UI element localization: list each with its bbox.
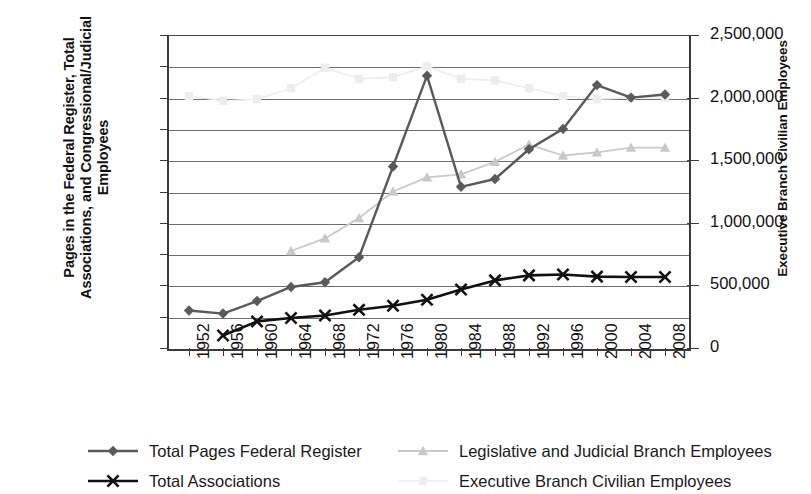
data-point-square — [419, 477, 427, 485]
legend-item-label: Legislative and Judicial Branch Employee… — [459, 442, 772, 461]
data-point-triangle — [388, 186, 398, 195]
data-point-square — [321, 64, 329, 72]
legend-item-label: Total Pages Federal Register — [149, 442, 362, 461]
y-axis-right-tick-label: 1,000,000 — [710, 212, 783, 231]
x-axis-tick-mark — [597, 348, 598, 356]
series-legislative-and-judicial-branch-employees — [286, 139, 670, 255]
legend-item-label: Total Associations — [149, 472, 280, 491]
data-point-square — [219, 97, 227, 105]
legend-marker-triangle-icon — [396, 440, 450, 462]
data-point-square — [423, 62, 431, 70]
legend-item[interactable]: Legislative and Judicial Branch Employee… — [396, 438, 772, 464]
y-axis-right-tick-mark — [687, 98, 699, 99]
legend-marker-square-icon — [396, 470, 450, 492]
data-point-diamond — [422, 70, 432, 80]
y-axis-right-tick-label: 2,500,000 — [710, 24, 783, 43]
x-axis-tick-mark — [427, 348, 428, 356]
y-axis-right-tick-mark — [687, 160, 699, 161]
series-total-pages-federal-register — [184, 70, 670, 318]
chart-figure: Pages in the Federal Register, Total Ass… — [0, 0, 811, 494]
legend-item-label: Executive Branch Civilian Employees — [459, 472, 731, 491]
data-point-diamond — [218, 308, 228, 318]
data-point-square — [355, 75, 363, 83]
x-axis-tick-mark — [257, 348, 258, 356]
x-axis-tick-mark — [189, 348, 190, 356]
data-point-square — [457, 75, 465, 83]
data-point-triangle — [490, 157, 500, 166]
data-point-diamond — [456, 182, 466, 192]
x-axis-tick-mark — [665, 348, 666, 356]
legend-item[interactable]: Total Pages Federal Register — [86, 438, 362, 464]
data-point-diamond — [108, 446, 118, 456]
data-point-diamond — [252, 296, 262, 306]
legend-marker-diamond-icon — [86, 440, 140, 462]
y-axis-title-left: Pages in the Federal Register, Total Ass… — [61, 8, 112, 308]
x-axis-tick-mark — [495, 348, 496, 356]
data-point-square — [185, 92, 193, 100]
data-point-square — [491, 76, 499, 84]
legend-marker-x-icon — [86, 470, 140, 492]
y-axis-right-tick-mark — [687, 223, 699, 224]
y-axis-right-tick-label: 500,000 — [710, 274, 770, 293]
data-point-square — [525, 84, 533, 92]
x-axis-tick-mark — [325, 348, 326, 356]
x-axis-tick-mark — [393, 348, 394, 356]
legend-item[interactable]: Total Associations — [86, 468, 280, 494]
legend-item[interactable]: Executive Branch Civilian Employees — [396, 468, 731, 494]
data-point-x — [217, 330, 228, 341]
data-point-square — [287, 84, 295, 92]
y-axis-right-tick-label: 2,000,000 — [710, 87, 783, 106]
data-point-square — [253, 95, 261, 103]
x-axis-tick-mark — [631, 348, 632, 356]
y-axis-right-tick-label: 0 — [710, 337, 719, 356]
chart-legend: Total Pages Federal RegisterTotal Associ… — [86, 438, 786, 494]
x-axis-tick-mark — [359, 348, 360, 356]
x-axis-tick-mark — [291, 348, 292, 356]
data-series-layer — [167, 35, 687, 348]
x-axis-tick-mark — [529, 348, 530, 356]
data-point-square — [559, 92, 567, 100]
data-point-triangle — [320, 233, 330, 242]
y-axis-right-tick-mark — [687, 35, 699, 36]
data-point-square — [593, 95, 601, 103]
series-total-associations — [217, 269, 670, 341]
data-point-diamond — [286, 282, 296, 292]
y-axis-right-tick-label: 1,500,000 — [710, 149, 783, 168]
y-axis-right-tick-mark — [687, 285, 699, 286]
y-axis-left-tick-mark — [160, 348, 169, 349]
data-point-diamond — [388, 161, 398, 171]
x-axis-tick-mark — [461, 348, 462, 356]
x-axis-tick-mark — [563, 348, 564, 356]
data-point-square — [389, 73, 397, 81]
x-axis-tick-mark — [223, 348, 224, 356]
data-point-diamond — [184, 305, 194, 315]
